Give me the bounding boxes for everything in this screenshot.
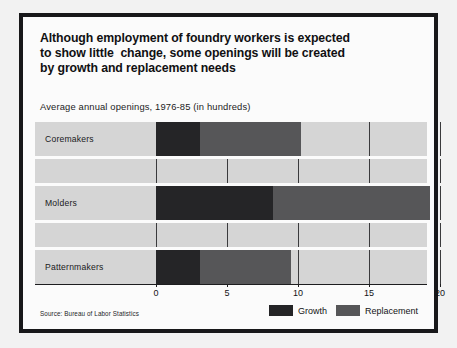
bar-segment-growth	[156, 122, 200, 156]
chart-row-coremakers: Coremakers	[35, 122, 427, 156]
bar-patternmakers	[156, 250, 291, 284]
chart-inner-panel: Although employment of foundry workers i…	[23, 17, 434, 329]
category-label-coremakers: Coremakers	[45, 134, 94, 144]
bar-coremakers	[156, 122, 301, 156]
legend-swatch-growth-icon	[269, 305, 293, 316]
axis-tick-label-0: 0	[153, 288, 158, 298]
bar-segment-growth	[156, 250, 200, 284]
axis-tick-label-5: 5	[224, 288, 229, 298]
bar-segment-growth	[156, 186, 273, 220]
legend-swatch-replacement-icon	[336, 305, 360, 316]
gridline-0	[156, 223, 157, 247]
gridline-20	[440, 186, 441, 220]
gridline-0	[156, 159, 157, 183]
bar-segment-replacement	[273, 186, 430, 220]
chart-row-molders: Molders	[35, 186, 427, 220]
legend-item-growth: Growth	[269, 305, 327, 316]
gridline-15	[369, 250, 370, 284]
axis-tick-label-15: 15	[364, 288, 374, 298]
gridline-15	[369, 223, 370, 247]
axis-tick-10	[298, 284, 299, 287]
gridline-15	[369, 159, 370, 183]
legend-item-replacement: Replacement	[336, 305, 418, 316]
chart-row-spacer-1	[35, 159, 427, 183]
category-label-patternmakers: Patternmakers	[45, 262, 103, 272]
headline-line-2: to show little change, some openings wil…	[40, 46, 418, 61]
gridline-5	[227, 159, 228, 183]
bar-segment-replacement	[200, 122, 301, 156]
chart-plot-area: Coremakers	[35, 122, 427, 284]
chart-frame: Although employment of foundry workers i…	[19, 13, 438, 333]
gridline-10	[298, 250, 299, 284]
chart-legend: Growth Replacement	[269, 305, 418, 316]
axis-tick-5	[227, 284, 228, 287]
gridline-10	[298, 223, 299, 247]
bar-molders	[156, 186, 430, 220]
gridline-20	[440, 223, 441, 247]
axis-tick-label-10: 10	[293, 288, 303, 298]
gridline-15	[369, 122, 370, 156]
chart-row-spacer-2	[35, 223, 427, 247]
chart-row-patternmakers: Patternmakers	[35, 250, 427, 284]
page-canvas: Although employment of foundry workers i…	[0, 0, 457, 348]
page-title: Although employment of foundry workers i…	[40, 31, 418, 77]
axis-tick-label-20: 20	[435, 288, 445, 298]
headline-line-1: Although employment of foundry workers i…	[40, 31, 418, 46]
bar-segment-replacement	[200, 250, 291, 284]
source-note: Source: Bureau of Labor Statistics	[40, 310, 139, 317]
gridline-10	[298, 159, 299, 183]
gridline-20	[440, 122, 441, 156]
axis-tick-15	[369, 284, 370, 287]
axis-tick-0	[156, 284, 157, 287]
axis-tick-20	[440, 284, 441, 287]
gridline-20	[440, 159, 441, 183]
chart-subtitle: Average annual openings, 1976-85 (in hun…	[40, 101, 251, 112]
headline-line-3: by growth and replacement needs	[40, 61, 418, 76]
legend-label-growth: Growth	[298, 306, 327, 316]
category-label-molders: Molders	[45, 198, 77, 208]
gridline-5	[227, 223, 228, 247]
legend-label-replacement: Replacement	[365, 306, 418, 316]
gridline-20	[440, 250, 441, 284]
chart-x-axis: 0 5 10 15 20	[35, 284, 427, 306]
